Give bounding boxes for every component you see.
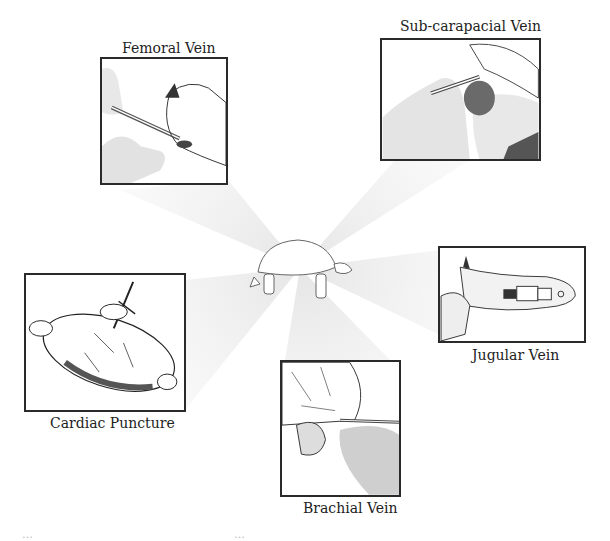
panel-cardiac-puncture: [24, 273, 186, 412]
subcarapacial-illustration: [382, 40, 539, 159]
panel-subcarapacial-vein: [380, 38, 541, 161]
caption-femoral-vein: Femoral Vein: [122, 40, 216, 56]
caption-cardiac-puncture: Cardiac Puncture: [50, 415, 175, 431]
panel-femoral-vein: [100, 57, 228, 185]
femoral-illustration: [102, 59, 226, 183]
cardiac-illustration: [26, 275, 184, 410]
cropped-footer-text-right: …: [234, 528, 245, 541]
brachial-illustration: [282, 362, 399, 495]
panel-jugular-vein: [438, 246, 586, 343]
caption-subcarapacial-vein: Sub-carapacial Vein: [400, 18, 541, 34]
turtle-icon: [248, 232, 354, 304]
jugular-illustration: [440, 248, 584, 341]
caption-jugular-vein: Jugular Vein: [472, 347, 559, 363]
cropped-footer-text-left: …: [22, 528, 33, 541]
panel-brachial-vein: [280, 360, 401, 497]
caption-brachial-vein: Brachial Vein: [303, 500, 398, 516]
